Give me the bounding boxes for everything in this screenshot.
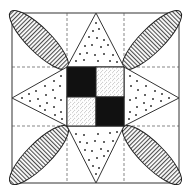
center-square-top-right xyxy=(96,67,124,97)
center-square-bottom-left xyxy=(67,97,96,126)
quilt-block-diagram xyxy=(0,0,193,195)
center-square-bottom-right xyxy=(96,97,124,126)
center-square-top-left xyxy=(67,67,96,97)
